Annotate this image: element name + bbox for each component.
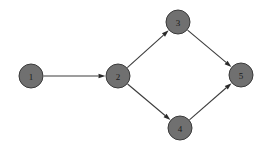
graph-node-1[interactable]: 1: [19, 64, 43, 88]
node-circle-4[interactable]: [168, 116, 192, 140]
graph-node-2[interactable]: 2: [106, 64, 130, 88]
graph-figure: 12345: [0, 0, 270, 151]
graph-node-4[interactable]: 4: [168, 116, 192, 140]
graph-canvas: 12345: [0, 0, 270, 151]
graph-node-3[interactable]: 3: [166, 10, 190, 34]
arrowhead-icon-1-to-2: [99, 74, 106, 79]
node-circle-5[interactable]: [229, 63, 253, 87]
node-circle-3[interactable]: [166, 10, 190, 34]
graph-node-5[interactable]: 5: [229, 63, 253, 87]
node-circle-1[interactable]: [19, 64, 43, 88]
node-circle-2[interactable]: [106, 64, 130, 88]
edges-layer: [44, 30, 232, 120]
graph-edge-2-to-3: [127, 35, 163, 68]
nodes-layer: 12345: [19, 10, 253, 140]
graph-edge-4-to-5: [189, 88, 226, 120]
graph-edge-3-to-5: [188, 30, 227, 62]
graph-edge-2-to-4: [128, 84, 165, 115]
